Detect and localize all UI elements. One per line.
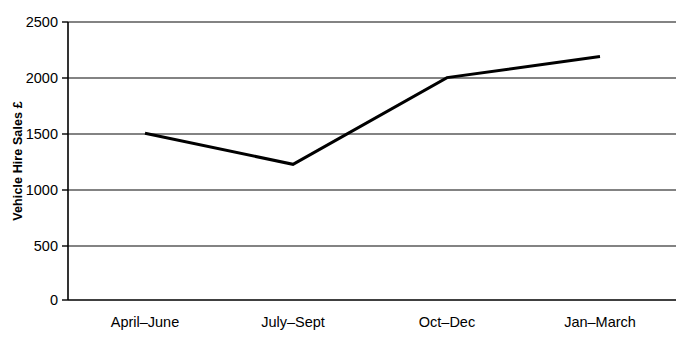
chart-canvas: 2500 2000 1500 1000 500 0 Vehicle Hire S… <box>0 0 680 338</box>
x-category-label-april-june: April–June <box>111 314 180 330</box>
line-chart: 2500 2000 1500 1000 500 0 Vehicle Hire S… <box>0 0 680 338</box>
y-tick-label-2500: 2500 <box>26 14 58 30</box>
y-tick-label-1500: 1500 <box>26 126 58 142</box>
y-tick-label-0: 0 <box>50 292 58 308</box>
chart-background <box>0 0 680 338</box>
y-tick-label-2000: 2000 <box>26 70 58 86</box>
y-tick-label-1000: 1000 <box>26 182 58 198</box>
x-category-label-jan-march: Jan–March <box>564 314 636 330</box>
x-category-label-oct-dec: Oct–Dec <box>419 314 475 330</box>
y-axis-title: Vehicle Hire Sales £ <box>11 101 25 220</box>
y-tick-label-500: 500 <box>34 238 58 254</box>
x-category-label-july-sept: July–Sept <box>261 314 325 330</box>
